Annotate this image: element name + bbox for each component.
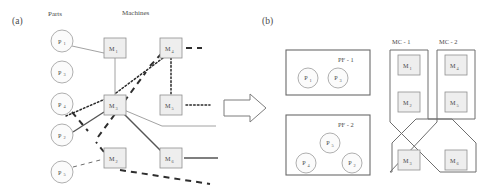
machine-subscript: 1 [410,66,412,71]
edge-dotted-right [116,58,163,93]
machine-node[interactable]: M 3 [398,150,420,170]
machine-node[interactable]: M 1 [398,55,420,75]
machine-label: M [403,62,409,69]
part-node[interactable]: P 2 [51,124,73,146]
part-circle[interactable] [320,133,340,153]
machine-subscript: 2 [410,103,412,108]
machine-label: M [403,99,409,106]
panel-a: (a) Parts Machines [12,9,218,184]
part-circle[interactable] [296,153,316,173]
machine-label: M [450,157,456,164]
part-node[interactable]: P 3 [328,68,348,88]
machine-label: M [403,157,409,164]
part-node[interactable]: P 1 [51,30,73,52]
machine-label: M [165,102,171,109]
part-subscript: 1 [64,41,66,46]
part-subscript: 2 [64,135,66,140]
part-family-group[interactable]: PF - 2 P 5 P 4 P 2 [286,115,370,175]
part-node[interactable]: P 4 [51,93,73,115]
part-circle[interactable] [51,30,73,52]
panel-b-label: (b) [262,16,273,27]
machine-label: M [109,102,115,109]
part-family-label: PF - 1 [338,56,354,63]
machine-node[interactable]: M 3 [104,95,126,115]
machine-cell-label: MC - 1 [392,38,410,45]
part-node[interactable]: P 5 [51,161,73,183]
machine-label: M [109,45,115,52]
machine-label: M [450,62,456,69]
machine-label: M [165,45,171,52]
machine-node[interactable]: M 4 [445,55,467,75]
machine-node[interactable]: M 1 [104,38,126,58]
part-circle[interactable] [51,93,73,115]
part-circle[interactable] [51,124,73,146]
panel-a-edges [66,46,218,184]
part-circle[interactable] [298,68,318,88]
part-circle[interactable] [328,68,348,88]
edge-bottom-dashed [120,170,210,184]
part-family-box[interactable] [286,50,370,95]
column-header-machines: Machines [122,9,149,17]
part-node[interactable]: P 1 [298,68,318,88]
part-node[interactable]: P 2 [342,153,362,173]
figure-canvas: (a) Parts Machines [0,0,482,194]
part-subscript: 1 [310,78,312,83]
part-label: P [58,132,62,139]
panel-a-parts: P 1 P 3 P 4 P 2 P 5 [51,30,73,183]
part-label: P [58,101,62,108]
panel-a-machines: M 1 M 3 M 2 M 4 M 5 [104,38,182,168]
part-family-label: PF - 2 [338,121,354,128]
panel-b: (b) PF - 1 P 1 P 3 PF - 2 P 5 [262,16,476,175]
part-node[interactable]: P 3 [51,61,73,83]
edge-p1-m1 [72,46,104,53]
part-circle[interactable] [51,61,73,83]
part-circle[interactable] [342,153,362,173]
part-circle[interactable] [51,161,73,183]
right-arrow-icon [224,94,266,122]
machine-subscript: 1 [116,49,118,54]
part-node[interactable]: P 5 [320,133,340,153]
machine-node[interactable]: M 2 [104,148,126,168]
machine-node[interactable]: M 4 [160,38,182,58]
machine-label: M [165,155,171,162]
edge-dashed-d [96,142,104,152]
machine-cell-label: MC - 2 [439,38,457,45]
panel-a-label: (a) [12,16,23,27]
machine-node[interactable]: M 2 [398,92,420,112]
part-label: P [58,69,62,76]
machine-label: M [109,155,115,162]
edge-p5-m3 [73,159,104,167]
part-label: P [334,74,338,81]
part-label: P [348,159,352,166]
machine-node[interactable]: M 5 [445,92,467,112]
part-label: P [58,169,62,176]
edge-p2-m2 [73,112,104,132]
part-label: P [58,38,62,45]
machine-node[interactable]: M 5 [160,95,182,115]
column-header-parts: Parts [48,10,62,18]
machine-node[interactable]: M 6 [160,148,182,168]
machine-label: M [450,99,456,106]
part-label: P [304,74,308,81]
part-subscript: 2 [354,163,356,168]
part-family-group[interactable]: PF - 1 P 1 P 3 [286,50,370,95]
part-node[interactable]: P 4 [296,153,316,173]
part-label: P [302,159,306,166]
part-label: P [326,139,330,146]
machine-node[interactable]: M 6 [445,150,467,170]
machine-subscript: 2 [116,159,118,164]
